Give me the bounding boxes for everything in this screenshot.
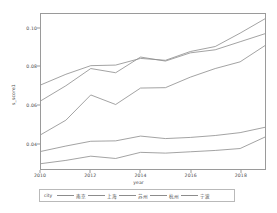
line-chart-figure: 0.100.080.060.04 s_score1 year city 南京上海… xyxy=(0,0,277,213)
x-tick-label: 2014 xyxy=(134,173,146,178)
legend-item-label: 南京 xyxy=(76,193,86,199)
y-axis-label: s_score1 xyxy=(11,73,16,117)
x-tick-mark xyxy=(90,170,91,173)
legend-line-swatch xyxy=(88,195,105,196)
legend-item-label: 苏州 xyxy=(138,193,148,199)
legend-item[interactable]: 宁波 xyxy=(181,193,210,199)
legend-line-swatch xyxy=(181,195,198,196)
legend-item-label: 杭州 xyxy=(169,193,179,199)
legend-item-label: 上海 xyxy=(107,193,117,199)
legend-line-swatch xyxy=(150,195,167,196)
x-tick-mark xyxy=(190,170,191,173)
x-tick-mark xyxy=(240,170,241,173)
plot-area xyxy=(40,13,266,170)
series-lines xyxy=(41,14,265,169)
legend-item[interactable]: 南京 xyxy=(57,193,86,199)
y-tick-mark xyxy=(37,27,40,28)
x-tick-label: 2016 xyxy=(185,173,197,178)
x-axis-label: year xyxy=(0,180,277,185)
x-tick-label: 2018 xyxy=(235,173,247,178)
x-tick-mark xyxy=(40,170,41,173)
legend-item[interactable]: 苏州 xyxy=(119,193,148,199)
y-tick-label: 0.06 xyxy=(26,103,37,108)
y-tick-mark xyxy=(37,66,40,67)
x-tick-mark xyxy=(140,170,141,173)
legend-item[interactable]: 上海 xyxy=(88,193,117,199)
y-tick-mark xyxy=(37,143,40,144)
legend-line-swatch xyxy=(57,195,74,196)
legend-line-swatch xyxy=(119,195,136,196)
legend-title: city xyxy=(44,193,52,198)
legend-item[interactable]: 杭州 xyxy=(150,193,179,199)
series-line xyxy=(41,34,265,101)
series-line xyxy=(41,137,265,164)
x-tick-label: 2012 xyxy=(84,173,96,178)
series-line xyxy=(41,127,265,151)
legend: city 南京上海苏州杭州宁波 xyxy=(39,189,235,202)
series-line xyxy=(41,19,265,85)
y-tick-label: 0.04 xyxy=(26,141,37,146)
y-tick-mark xyxy=(37,105,40,106)
legend-item-label: 宁波 xyxy=(200,193,210,199)
x-tick-label: 2010 xyxy=(34,173,46,178)
y-tick-label: 0.10 xyxy=(26,25,37,30)
y-tick-label: 0.08 xyxy=(26,64,37,69)
